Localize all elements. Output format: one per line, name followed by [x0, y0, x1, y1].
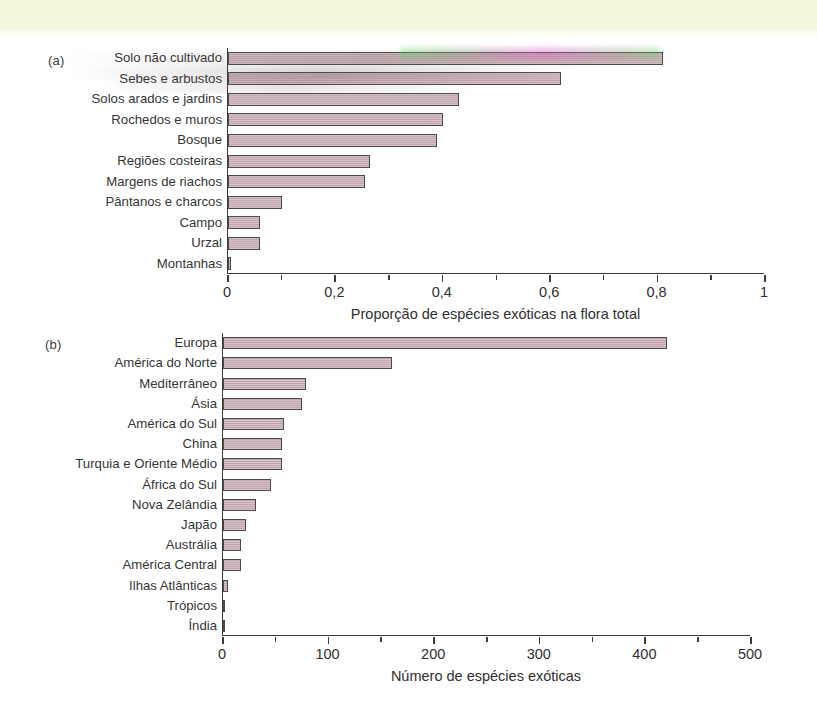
x-tick-minor: [380, 637, 382, 642]
category-label: Trópicos: [167, 599, 217, 612]
bar: [223, 337, 667, 349]
category-label: Turquia e Oriente Médio: [75, 457, 217, 470]
category-label: Nova Zelândia: [132, 498, 217, 511]
category-label: Mediterrâneo: [139, 377, 217, 390]
bar: [223, 600, 225, 612]
x-tick-minor: [697, 637, 699, 642]
x-tick-minor: [388, 275, 390, 280]
category-label: Ásia: [191, 397, 217, 410]
bar: [223, 398, 302, 410]
category-label: Rochedos e muros: [111, 113, 222, 126]
x-tick-minor: [496, 275, 498, 280]
x-tick-label: 0: [218, 646, 226, 662]
figure-page: (a) Solo não cultivadoSebes e arbustosSo…: [0, 0, 817, 707]
category-label: América Central: [122, 558, 217, 571]
bar: [223, 479, 271, 491]
category-label: Europa: [174, 336, 217, 349]
bar: [228, 134, 437, 147]
top-color-band: [0, 0, 817, 30]
x-tick-minor: [486, 637, 488, 642]
bar: [228, 257, 231, 270]
bar: [223, 438, 282, 450]
x-tick-major: [334, 275, 336, 282]
x-tick-label: 300: [527, 646, 551, 662]
bar: [223, 378, 306, 390]
x-tick-major: [227, 275, 229, 282]
x-tick-minor: [592, 637, 594, 642]
bar: [228, 237, 260, 250]
x-tick-label: 100: [315, 646, 339, 662]
category-label: Ilhas Atlânticas: [129, 579, 217, 592]
x-tick-minor: [710, 275, 712, 280]
bar: [223, 499, 256, 511]
x-tick-label: 1: [760, 284, 768, 300]
bar: [223, 620, 225, 632]
panel-a-plot-area: [227, 48, 764, 274]
category-label: Regiões costeiras: [117, 154, 222, 167]
bar: [223, 519, 246, 531]
bar: [228, 113, 443, 126]
x-tick-major: [539, 637, 541, 644]
x-tick-label: 400: [632, 646, 656, 662]
x-tick-major: [549, 275, 551, 282]
category-label: Solos arados e jardins: [92, 92, 222, 105]
panel-b-plot-area: [222, 333, 750, 636]
bar: [228, 155, 370, 168]
bar: [223, 418, 284, 430]
bar: [228, 175, 365, 188]
x-tick-major: [442, 275, 444, 282]
bar: [223, 539, 241, 551]
panel-a-category-labels: Solo não cultivadoSebes e arbustosSolos …: [0, 48, 222, 274]
bar: [223, 580, 228, 592]
category-label: Austrália: [166, 538, 217, 551]
panel-a-x-axis-title: Proporção de espécies exóticas na flora …: [351, 306, 640, 322]
x-tick-major: [750, 637, 752, 644]
bar: [228, 216, 260, 229]
category-label: América do Norte: [114, 356, 217, 369]
category-label: Pântanos e charcos: [105, 195, 222, 208]
category-label: China: [183, 437, 217, 450]
category-label: Margens de riachos: [106, 175, 222, 188]
x-tick-major: [433, 637, 435, 644]
bar: [223, 559, 241, 571]
x-tick-major: [328, 637, 330, 644]
x-tick-major: [644, 637, 646, 644]
x-tick-label: 0,4: [432, 284, 452, 300]
category-label: Solo não cultivado: [114, 51, 222, 64]
category-label: América do Sul: [128, 417, 217, 430]
panel-b-category-labels: EuropaAmérica do NorteMediterrâneoÁsiaAm…: [0, 333, 217, 636]
x-tick-minor: [275, 637, 277, 642]
x-tick-major: [657, 275, 659, 282]
x-tick-label: 500: [738, 646, 762, 662]
x-tick-label: 0,6: [539, 284, 559, 300]
x-tick-minor: [281, 275, 283, 280]
bar: [223, 357, 392, 369]
x-tick-minor: [603, 275, 605, 280]
bar: [228, 93, 459, 106]
category-label: Sebes e arbustos: [119, 72, 222, 85]
x-tick-major: [222, 637, 224, 644]
category-label: Montanhas: [157, 257, 222, 270]
x-tick-label: 0,8: [647, 284, 667, 300]
bar: [223, 458, 282, 470]
category-label: Bosque: [177, 133, 222, 146]
category-label: África do Sul: [142, 478, 217, 491]
bar: [228, 72, 561, 85]
bar: [228, 196, 282, 209]
x-tick-label: 200: [421, 646, 445, 662]
category-label: Urzal: [191, 236, 222, 249]
bar: [228, 52, 663, 65]
category-label: Índia: [188, 619, 217, 632]
panel-b-x-axis-title: Número de espécies exóticas: [391, 668, 581, 684]
x-tick-label: 0: [223, 284, 231, 300]
x-tick-label: 0,2: [324, 284, 344, 300]
x-tick-major: [764, 275, 766, 282]
top-color-band-fade: [0, 30, 817, 38]
category-label: Campo: [179, 216, 222, 229]
category-label: Japão: [181, 518, 217, 531]
